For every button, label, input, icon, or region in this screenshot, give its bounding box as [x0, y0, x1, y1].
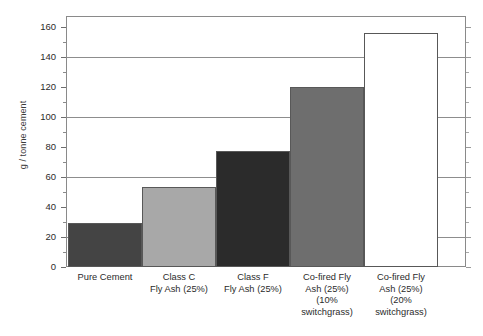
x-axis-category-label-line: Co-fired Fly — [353, 272, 449, 284]
y-axis-tick-minor — [63, 42, 66, 43]
y-axis-tick-major — [61, 177, 66, 178]
x-axis-category-label-line: Ash (25%) — [353, 284, 449, 296]
x-axis-category-label: Co-fired FlyAsh (25%)(20%switchgrass) — [353, 272, 449, 318]
y-axis-tick-major — [61, 27, 66, 28]
y-axis-right-tick-major — [466, 267, 471, 268]
y-axis-right-tick-major — [466, 117, 471, 118]
x-axis-category-label-line: (20% — [353, 295, 449, 307]
y-axis-tick-major — [61, 237, 66, 238]
bar — [142, 187, 216, 267]
y-axis-right-tick-major — [466, 57, 471, 58]
bar — [364, 33, 438, 267]
y-axis-right-tick-minor — [466, 162, 469, 163]
y-axis-tick-major — [61, 87, 66, 88]
y-axis-tick-minor — [63, 222, 66, 223]
bar-chart: g / tonne cement 020406080100120140160 P… — [0, 0, 483, 336]
y-axis-right-tick-minor — [466, 72, 469, 73]
y-axis-right-tick-minor — [466, 42, 469, 43]
y-axis-tick-label: 120 — [30, 82, 56, 92]
y-axis-tick-major — [61, 207, 66, 208]
y-axis-tick-minor — [63, 192, 66, 193]
y-axis-tick-label: 0 — [30, 262, 56, 272]
bar — [216, 151, 290, 267]
y-axis-tick-major — [61, 117, 66, 118]
y-axis-right-tick-major — [466, 147, 471, 148]
y-axis-right-tick-major — [466, 237, 471, 238]
y-axis-tick-minor — [63, 162, 66, 163]
bar — [68, 223, 142, 267]
y-axis-right-tick-minor — [466, 222, 469, 223]
y-axis-tick-label: 40 — [30, 202, 56, 212]
x-axis-category-label-line: switchgrass) — [353, 307, 449, 319]
y-axis-tick-minor — [63, 132, 66, 133]
y-axis-right-tick-major — [466, 207, 471, 208]
y-axis-tick-minor — [63, 102, 66, 103]
y-axis-title-text: g / tonne cement — [18, 101, 28, 170]
y-axis-tick-minor — [63, 252, 66, 253]
y-axis-tick-major — [61, 267, 66, 268]
y-axis-right-tick-minor — [466, 252, 469, 253]
y-axis-tick-labels: 020406080100120140160 — [28, 0, 56, 336]
y-axis-right-tick-minor — [466, 192, 469, 193]
plot-area — [66, 16, 466, 267]
bar — [290, 87, 364, 267]
y-axis-tick-label: 100 — [30, 112, 56, 122]
y-axis-right-tick-major — [466, 87, 471, 88]
y-axis-tick-label: 80 — [30, 142, 56, 152]
y-axis-tick-major — [61, 147, 66, 148]
y-axis-tick-label: 160 — [30, 22, 56, 32]
x-axis-category-labels: Pure CementClass CFly Ash (25%)Class FFl… — [66, 272, 466, 336]
y-axis-tick-label: 60 — [30, 172, 56, 182]
y-axis-tick-major — [61, 57, 66, 58]
y-axis-right-tick-minor — [466, 102, 469, 103]
y-axis-tick-label: 20 — [30, 232, 56, 242]
y-axis-right-tick-major — [466, 177, 471, 178]
y-axis-right-tick-minor — [466, 132, 469, 133]
y-axis-right-tick-major — [466, 27, 471, 28]
y-axis-tick-minor — [63, 72, 66, 73]
y-axis-tick-label: 140 — [30, 52, 56, 62]
